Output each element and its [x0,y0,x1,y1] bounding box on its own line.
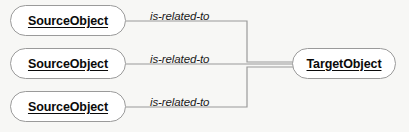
edge-label-is-related-to-2: is-related-to [150,53,209,65]
node-label: SourceObject [28,57,108,71]
node-label: TargetObject [307,57,382,71]
node-source-object-2[interactable]: SourceObject [10,48,126,79]
relationship-diagram: SourceObject SourceObject SourceObject T… [0,0,409,132]
node-label: SourceObject [28,14,108,28]
node-source-object-3[interactable]: SourceObject [10,91,126,122]
node-target-object[interactable]: TargetObject [292,48,396,79]
edge-label-is-related-to-3: is-related-to [150,96,209,108]
edge-label-is-related-to-1: is-related-to [150,10,209,22]
node-source-object-1[interactable]: SourceObject [10,5,126,36]
node-label: SourceObject [28,100,108,114]
